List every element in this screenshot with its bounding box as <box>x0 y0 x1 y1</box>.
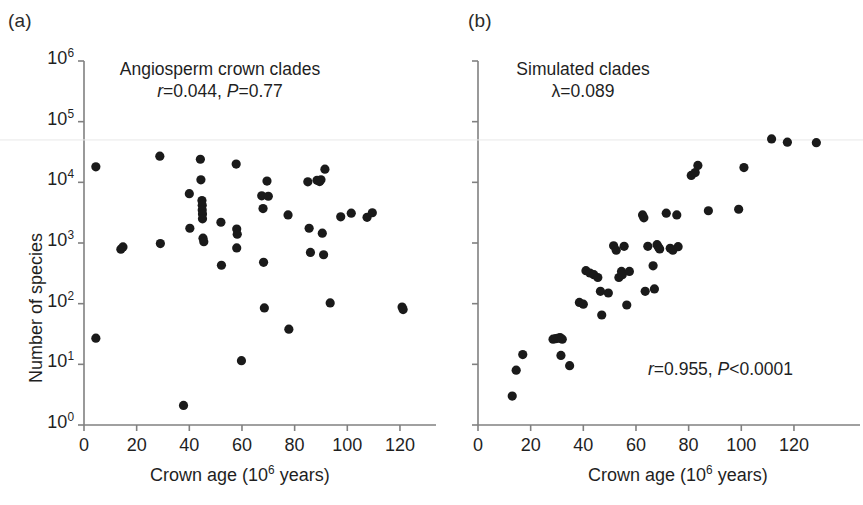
p-symbol: P <box>718 359 730 379</box>
data-point <box>260 303 269 312</box>
data-point <box>783 138 792 147</box>
panel-b-annotation-top: Simulated clades λ=0.089 <box>488 58 678 103</box>
data-point <box>336 212 345 221</box>
data-point <box>512 366 521 375</box>
panel-a-ytick-label: 102 <box>12 291 74 312</box>
panel-b-annotation-stats: r=0.955, P<0.0001 <box>648 358 848 380</box>
panel-a-annotation-title: Angiosperm crown clades <box>95 58 345 80</box>
xtick-label: 60 <box>212 435 272 456</box>
data-point <box>198 214 207 223</box>
data-point <box>319 250 328 259</box>
data-point <box>648 261 657 270</box>
data-point <box>643 242 652 251</box>
data-point <box>196 155 205 164</box>
data-point <box>305 224 314 233</box>
data-point <box>283 210 292 219</box>
data-point <box>232 243 241 252</box>
data-point <box>739 163 748 172</box>
data-point <box>91 334 100 343</box>
data-point <box>625 267 634 276</box>
data-point <box>650 284 659 293</box>
data-point <box>604 288 613 297</box>
data-point <box>155 152 164 161</box>
panel-b-annotation-title: Simulated clades <box>488 58 678 80</box>
data-point <box>179 401 188 410</box>
panel-a-ytick-label: 104 <box>12 169 74 190</box>
data-point <box>316 175 325 184</box>
data-point <box>518 350 527 359</box>
data-point <box>622 300 631 309</box>
data-point <box>259 258 268 267</box>
data-point <box>672 210 681 219</box>
data-point <box>233 230 242 239</box>
r-value: =0.044, <box>163 81 222 101</box>
data-point <box>556 351 565 360</box>
data-point <box>639 213 648 222</box>
data-point <box>320 165 329 174</box>
xtick-label: 40 <box>159 435 219 456</box>
data-point <box>258 204 267 213</box>
xtick-label: 120 <box>764 435 824 456</box>
lambda-value: =0.089 <box>560 81 614 101</box>
data-point <box>767 134 776 143</box>
xlabel-exponent: 6 <box>268 463 275 477</box>
data-point <box>662 209 671 218</box>
xtick-label: 0 <box>54 435 114 456</box>
xlabel-main: Crown age (10 <box>150 465 268 485</box>
p-value: <0.0001 <box>729 359 793 379</box>
data-point <box>262 176 271 185</box>
data-point <box>303 177 312 186</box>
data-point <box>318 229 327 238</box>
data-point <box>704 206 713 215</box>
data-point <box>674 242 683 251</box>
xtick-label: 0 <box>448 435 508 456</box>
data-point <box>217 261 226 270</box>
p-value: =0.77 <box>238 81 282 101</box>
xtick-label: 80 <box>659 435 719 456</box>
xtick-label: 60 <box>606 435 666 456</box>
data-point <box>641 287 650 296</box>
panel-b-annotation-lambda: λ=0.089 <box>488 80 678 102</box>
xtick-label: 120 <box>370 435 430 456</box>
xlabel-exponent: 6 <box>706 463 713 477</box>
r-value: =0.955, <box>654 359 713 379</box>
panel-a: (a) Angiosperm crown clades r=0.044, P=0… <box>0 0 440 505</box>
data-point <box>655 244 664 253</box>
data-point <box>284 325 293 334</box>
panel-b-xaxis-title: Crown age (106 years) <box>588 465 768 486</box>
panel-a-annotation: Angiosperm crown clades r=0.044, P=0.77 <box>95 58 345 103</box>
xtick-label: 40 <box>553 435 613 456</box>
data-point <box>326 298 335 307</box>
data-point <box>734 205 743 214</box>
xtick-label: 100 <box>317 435 377 456</box>
xlabel-tail: years) <box>713 465 768 485</box>
data-point <box>579 300 588 309</box>
data-point <box>347 209 356 218</box>
panel-a-ytick-label: 100 <box>12 412 74 433</box>
data-point <box>812 138 821 147</box>
xtick-label: 20 <box>501 435 561 456</box>
figure-root: (a) Angiosperm crown clades r=0.044, P=0… <box>0 0 863 505</box>
panel-a-ytick-label: 106 <box>12 48 74 69</box>
panel-a-annotation-stats: r=0.044, P=0.77 <box>95 80 345 102</box>
data-point <box>597 310 606 319</box>
data-point <box>156 239 165 248</box>
p-symbol: P <box>227 81 239 101</box>
xlabel-main: Crown age (10 <box>588 465 706 485</box>
data-point <box>237 356 246 365</box>
data-point <box>91 162 100 171</box>
panel-a-ytick-label: 105 <box>12 109 74 130</box>
panel-a-ytick-label: 103 <box>12 230 74 251</box>
data-point <box>558 335 567 344</box>
panel-b: (b) Simulated clades λ=0.089 r=0.955, P<… <box>440 0 863 505</box>
data-point <box>399 305 408 314</box>
xlabel-tail: years) <box>275 465 330 485</box>
data-point <box>199 237 208 246</box>
data-point <box>612 246 621 255</box>
data-point <box>593 273 602 282</box>
scatter-points <box>91 152 407 410</box>
data-point <box>264 192 273 201</box>
data-point <box>185 189 194 198</box>
panel-a-xaxis-title: Crown age (106 years) <box>150 465 330 486</box>
data-point <box>565 361 574 370</box>
